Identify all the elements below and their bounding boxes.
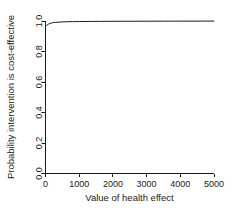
y-axis-title: Probability intervention is cost-effecti… — [5, 15, 16, 179]
x-tick-label: 0 — [43, 179, 48, 189]
y-tick-label: 1.0 — [34, 15, 44, 28]
x-tick-label: 1000 — [69, 179, 89, 189]
chart-container: 0.00.20.40.60.81.0 010002000300040005000… — [0, 0, 235, 217]
y-tick-label: 0.4 — [34, 106, 44, 119]
x-tick-label: 4000 — [170, 179, 190, 189]
y-tick-label: 0.6 — [34, 76, 44, 89]
x-axis-title: Value of health effect — [85, 192, 174, 203]
x-tick-label: 3000 — [137, 179, 157, 189]
x-tick-label: 2000 — [103, 179, 123, 189]
y-tick-label: 0.2 — [34, 137, 44, 150]
y-tick-label: 0.8 — [34, 45, 44, 58]
x-tick-label: 5000 — [204, 179, 224, 189]
ceac-plot: 0.00.20.40.60.81.0 010002000300040005000… — [0, 0, 235, 217]
